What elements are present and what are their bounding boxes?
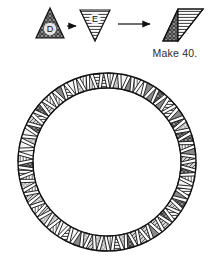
unit-d-group: D [36,8,64,38]
unit-de-parallelogram [163,9,203,41]
unit-e-group: E [80,10,110,41]
ring-triangle [100,236,107,251]
ring-triangle [18,162,33,168]
ring-triangle [101,73,107,88]
piecing-diagram: D E [0,0,214,264]
triangle-e-label: E [92,14,98,24]
ring-triangle [107,73,114,88]
ring-triangle [107,236,113,251]
ring-triangle [181,162,196,169]
make-count-caption: Make 40. [140,47,210,59]
ring-inner-circle [33,88,181,236]
pieced-ring [18,73,196,251]
diagram-canvas: D E Make 40. [0,0,214,264]
ring-triangle [181,156,196,162]
ring-triangle [18,155,33,162]
triangle-d-label: D [47,24,54,34]
